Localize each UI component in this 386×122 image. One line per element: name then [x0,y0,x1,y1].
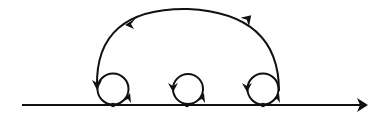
real-axis [22,98,368,112]
loop-left [98,74,132,108]
loop-middle [168,74,205,107]
point-marker [111,103,115,107]
contour-diagram [0,0,386,122]
loop-right [242,74,280,108]
point-marker [261,103,265,107]
loop-right-arrow-down-icon [242,83,252,92]
point-marker [185,103,189,107]
